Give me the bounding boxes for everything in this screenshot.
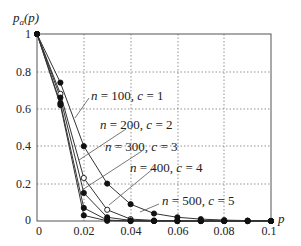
data-point xyxy=(81,190,86,195)
y-axis-ticks: 1 0.8 0.6 0.4 0.2 0 xyxy=(16,27,31,227)
data-point xyxy=(175,218,180,223)
data-point xyxy=(81,175,86,180)
annotations: n = 100, c = 1 n = 200, c = 2 n = 300, c… xyxy=(91,88,234,208)
data-point xyxy=(81,213,86,218)
data-point xyxy=(198,218,203,223)
data-point xyxy=(222,218,227,223)
y-tick: 0.8 xyxy=(16,65,31,79)
data-point xyxy=(58,102,63,107)
data-point xyxy=(151,211,156,216)
data-point xyxy=(34,31,39,36)
data-point xyxy=(151,218,156,223)
data-point xyxy=(81,205,86,210)
data-point xyxy=(105,207,110,212)
x-tick: 0.04 xyxy=(121,224,142,238)
data-point xyxy=(58,80,63,85)
data-point xyxy=(268,218,273,223)
annotation-leaders xyxy=(75,98,159,212)
data-point xyxy=(245,218,250,223)
annotation-n200: n = 200, c = 2 xyxy=(100,117,172,132)
data-point xyxy=(128,218,133,223)
data-point xyxy=(128,202,133,207)
x-tick: 0.08 xyxy=(214,224,235,238)
y-tick: 0.4 xyxy=(16,139,31,153)
x-tick: 0 xyxy=(36,224,42,238)
annotation-n400: n = 400, c = 4 xyxy=(130,160,203,175)
annotation-n300: n = 300, c = 3 xyxy=(105,139,177,154)
x-tick: 0.02 xyxy=(74,224,95,238)
x-axis-ticks: 0 0.02 0.04 0.06 0.08 0.1 xyxy=(36,224,277,238)
x-tick: 0.1 xyxy=(262,224,277,238)
oc-curve-chart: 1 0.8 0.6 0.4 0.2 0 0 0.02 0.04 0.06 0.0… xyxy=(0,0,301,246)
data-point xyxy=(58,95,63,100)
data-point xyxy=(105,181,110,186)
annotation-n500: n = 500, c = 5 xyxy=(162,193,234,208)
annotation-n100: n = 100, c = 1 xyxy=(91,88,163,103)
y-tick: 0.2 xyxy=(16,177,31,191)
y-tick: 0 xyxy=(25,213,31,227)
y-axis-label: pa(p) xyxy=(12,10,39,27)
data-point xyxy=(105,218,110,223)
y-tick: 0.6 xyxy=(16,102,31,116)
x-axis-label: p xyxy=(277,211,285,226)
y-tick: 1 xyxy=(25,27,31,41)
x-tick: 0.06 xyxy=(168,224,189,238)
data-point xyxy=(81,144,86,149)
